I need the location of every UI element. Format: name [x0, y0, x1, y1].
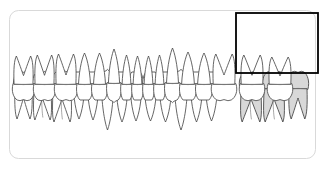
dental-chart-svg: [0, 0, 323, 170]
tooth-crown: [267, 84, 293, 101]
tooth-crown: [91, 84, 107, 100]
tooth-crown: [132, 84, 144, 100]
tooth-crown: [54, 84, 78, 101]
tooth-crown: [143, 84, 155, 100]
tooth-crown: [239, 84, 265, 101]
tooth-crown: [179, 84, 196, 100]
dental-chart-stage: [0, 0, 323, 170]
tooth-crown: [76, 84, 92, 100]
tooth-crown: [12, 84, 34, 101]
tooth-crown: [154, 84, 166, 100]
tooth-crown: [33, 84, 55, 101]
tooth-crown: [121, 84, 133, 100]
tooth-crown: [211, 84, 237, 101]
tooth-crown: [195, 84, 212, 100]
